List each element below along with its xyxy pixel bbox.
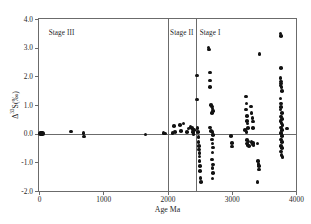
data-point — [245, 114, 249, 118]
data-point — [210, 158, 214, 162]
data-point — [196, 130, 200, 134]
y-axis-title: Δ33S(‰) — [12, 91, 20, 119]
stage-label-stage-iii: Stage III — [49, 30, 75, 37]
data-point — [257, 168, 261, 172]
y-axis-tick: -1.0 — [35, 162, 39, 163]
data-point — [173, 130, 177, 134]
data-point — [208, 85, 212, 89]
stage-label-stage-ii: Stage II — [170, 30, 193, 37]
y-axis-tick-label: -1.0 — [21, 159, 33, 166]
data-point — [256, 142, 260, 146]
y-axis-title-unit: S(‰) — [11, 91, 20, 108]
data-point — [210, 138, 214, 142]
data-point — [185, 130, 189, 134]
y-axis-title-superscript: 33 — [9, 108, 15, 113]
data-point — [144, 133, 148, 137]
data-point — [207, 48, 211, 52]
x-axis-tick: 4000 — [296, 191, 297, 195]
data-point — [199, 180, 203, 184]
data-point — [281, 155, 285, 159]
data-point — [196, 126, 200, 130]
data-point — [230, 145, 234, 149]
data-point — [245, 102, 249, 106]
data-point — [197, 135, 201, 139]
data-point — [198, 159, 202, 163]
y-axis-tick: 3.0 — [35, 48, 39, 49]
data-point — [197, 144, 201, 148]
data-point — [211, 177, 215, 181]
x-axis-tick-label: 2000 — [161, 196, 176, 203]
y-axis-tick-label: 1.0 — [24, 102, 33, 109]
y-axis-tick-label: 0.0 — [24, 130, 33, 137]
data-point — [249, 105, 253, 109]
data-point — [285, 127, 289, 131]
data-point — [280, 89, 284, 93]
data-point — [172, 124, 176, 128]
data-point — [244, 108, 248, 112]
data-point — [179, 129, 183, 133]
data-point — [252, 143, 256, 147]
y-axis-tick: 2.0 — [35, 76, 39, 77]
data-point — [192, 132, 196, 136]
y-axis-tick-label: 2.0 — [24, 73, 33, 80]
data-point — [211, 151, 215, 155]
data-point — [251, 120, 255, 124]
data-point — [178, 123, 182, 127]
data-point — [198, 164, 202, 168]
x-axis-tick-label: 4000 — [289, 196, 304, 203]
data-point — [211, 166, 215, 170]
data-point — [182, 122, 186, 126]
data-point — [279, 34, 283, 38]
data-point — [251, 126, 255, 130]
data-point — [211, 171, 215, 175]
data-point — [244, 95, 248, 99]
data-point — [279, 97, 283, 101]
data-point — [246, 122, 250, 126]
plot-area: 4.03.02.01.00.0-1.0-2.001000200030004000… — [39, 19, 296, 191]
x-axis-tick-label: 3000 — [225, 196, 240, 203]
x-axis-tick-label: 0 — [38, 196, 42, 203]
data-point — [82, 135, 86, 139]
y-axis-tick: 1.0 — [35, 105, 39, 106]
x-axis-tick: 2000 — [168, 191, 169, 195]
data-point — [250, 111, 254, 115]
x-axis-tick: 1000 — [103, 191, 104, 195]
y-axis-tick: 4.0 — [35, 19, 39, 20]
x-axis-tick: 0 — [39, 191, 40, 195]
data-point — [211, 142, 215, 146]
stage-divider-line — [168, 19, 169, 191]
data-point — [39, 131, 44, 136]
data-point — [208, 79, 212, 83]
data-point — [208, 71, 212, 75]
y-axis-title-delta: Δ — [11, 114, 20, 119]
data-point — [198, 155, 202, 159]
plot-frame: 4.03.02.01.00.0-1.0-2.001000200030004000… — [38, 18, 297, 192]
y-axis-tick-label: 3.0 — [24, 44, 33, 51]
data-point — [198, 169, 202, 173]
data-point — [229, 134, 233, 138]
x-axis-title: Age Ma — [38, 206, 297, 214]
y-axis-tick-label: -2.0 — [21, 188, 33, 195]
x-axis-tick-label: 1000 — [96, 196, 111, 203]
data-point — [69, 130, 73, 134]
data-point — [211, 133, 215, 137]
scatter-plot-figure: 4.03.02.01.00.0-1.0-2.001000200030004000… — [0, 0, 311, 224]
data-point — [258, 52, 262, 56]
data-point — [211, 146, 215, 150]
data-point — [210, 111, 214, 115]
y-axis-tick-label: 4.0 — [24, 16, 33, 23]
data-point — [195, 74, 199, 78]
data-point — [163, 132, 167, 136]
data-point — [195, 98, 199, 102]
data-point — [256, 180, 260, 184]
data-point — [279, 66, 283, 70]
x-axis-tick: 3000 — [232, 191, 233, 195]
stage-label-stage-i: Stage I — [200, 30, 221, 37]
